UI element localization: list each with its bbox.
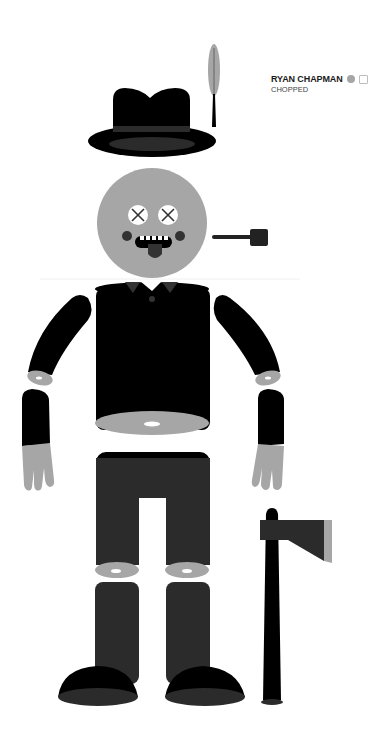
- torso-icon: [95, 281, 210, 435]
- boot-icon: [58, 582, 245, 706]
- pants-icon: [95, 452, 210, 578]
- lumberjack-illustration: [0, 0, 374, 738]
- axe-icon: [260, 508, 332, 705]
- head-icon: [97, 168, 207, 278]
- pipe-icon: [212, 229, 268, 246]
- hat-icon: [88, 88, 216, 157]
- feather-icon: [208, 44, 220, 127]
